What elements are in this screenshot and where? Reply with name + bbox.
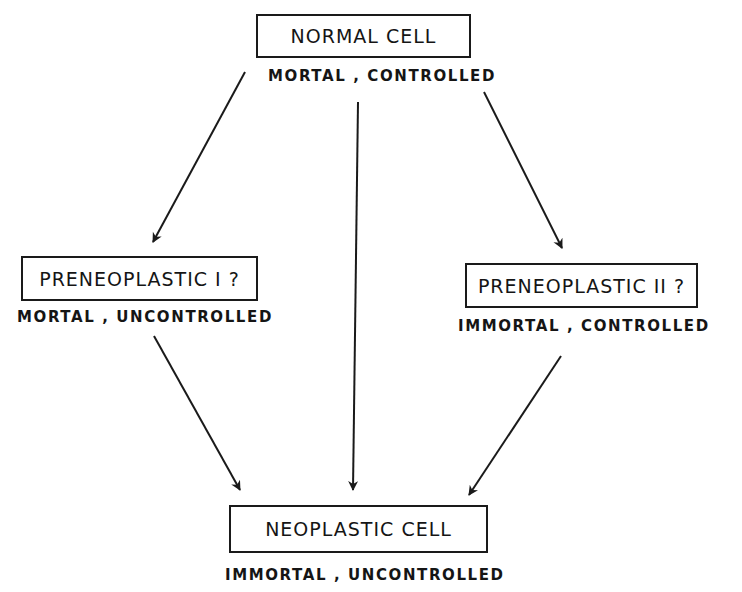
arrow-preneoplastic-1-to-neoplastic	[154, 336, 240, 490]
node-preneoplastic-2-caption: IMMORTAL , CONTROLLED	[458, 317, 710, 335]
node-neoplastic-cell-label: NEOPLASTIC CELL	[265, 518, 452, 540]
node-normal-cell-caption: MORTAL , CONTROLLED	[268, 67, 496, 85]
node-preneoplastic-2-label: PRENEOPLASTIC II ?	[478, 275, 685, 297]
node-preneoplastic-2: PRENEOPLASTIC II ?	[465, 263, 698, 308]
node-preneoplastic-1-caption: MORTAL , UNCONTROLLED	[17, 308, 273, 326]
node-neoplastic-cell: NEOPLASTIC CELL	[229, 505, 488, 553]
cell-transformation-diagram: NORMAL CELL MORTAL , CONTROLLED PRENEOPL…	[0, 0, 742, 592]
node-preneoplastic-1: PRENEOPLASTIC I ?	[21, 256, 258, 301]
node-normal-cell-label: NORMAL CELL	[291, 25, 437, 47]
node-normal-cell: NORMAL CELL	[256, 14, 471, 58]
arrow-preneoplastic-2-to-neoplastic	[469, 356, 561, 495]
arrow-normal-to-neoplastic	[353, 102, 358, 490]
node-preneoplastic-1-label: PRENEOPLASTIC I ?	[39, 268, 240, 290]
arrow-normal-to-preneoplastic-2	[484, 92, 562, 248]
arrow-normal-to-preneoplastic-1	[153, 72, 245, 242]
node-neoplastic-cell-caption: IMMORTAL , UNCONTROLLED	[225, 566, 505, 584]
